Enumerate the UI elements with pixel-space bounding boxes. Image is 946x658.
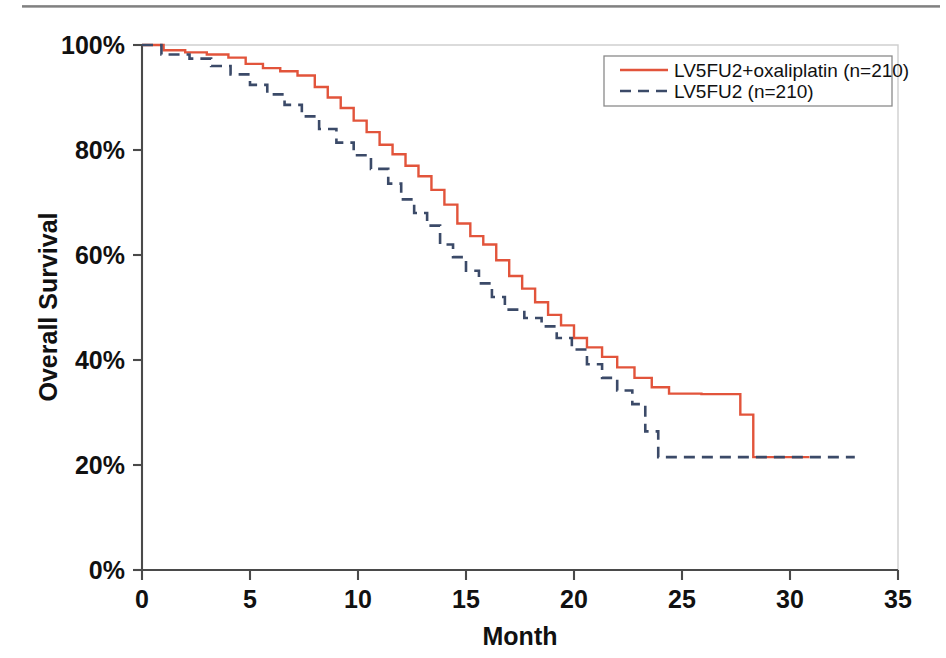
x-tick-label-25: 25 (668, 585, 696, 613)
y-axis-title: Overall Survival (34, 212, 62, 401)
chart-legend: LV5FU2+oxaliplatin (n=210) LV5FU2 (n=210… (604, 56, 909, 106)
x-tick-label-15: 15 (452, 585, 480, 613)
y-tick-label-60: 60% (75, 241, 125, 269)
kaplan-meier-survival-chart: 100% 80% 60% 40% 20% 0% 0 5 10 15 20 25 … (0, 0, 946, 658)
figure-container: 100% 80% 60% 40% 20% 0% 0 5 10 15 20 25 … (0, 0, 946, 658)
x-tick-label-0: 0 (135, 585, 149, 613)
y-tick-label-40: 40% (75, 346, 125, 374)
x-tick-label-10: 10 (344, 585, 372, 613)
x-tick-label-30: 30 (776, 585, 804, 613)
x-tick-label-20: 20 (560, 585, 588, 613)
survival-curves (142, 45, 855, 457)
x-axis-title: Month (483, 622, 558, 650)
y-tick-label-20: 20% (75, 451, 125, 479)
curve-lv5fu2 (142, 45, 855, 457)
legend-label-oxaliplatin: LV5FU2+oxaliplatin (n=210) (674, 60, 909, 81)
y-tick-label-80: 80% (75, 136, 125, 164)
legend-label-lv5fu2: LV5FU2 (n=210) (674, 81, 814, 102)
y-tick-label-0: 0% (89, 556, 125, 584)
y-tick-label-100: 100% (61, 31, 125, 59)
plot-frame (142, 45, 898, 570)
x-tick-label-35: 35 (884, 585, 912, 613)
x-axis-ticks (142, 570, 898, 580)
curve-lv5fu2-oxaliplatin (142, 45, 809, 457)
x-tick-label-5: 5 (243, 585, 257, 613)
y-axis-ticks (133, 45, 142, 570)
